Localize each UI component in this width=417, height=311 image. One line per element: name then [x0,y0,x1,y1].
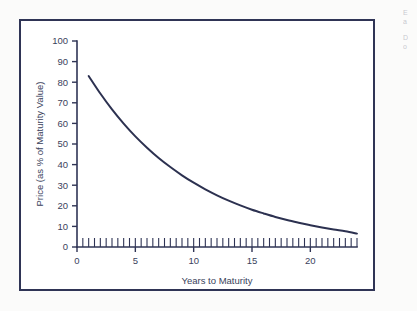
y-axis-title: Price (as % of Maturity Value) [34,82,45,207]
y-tick-label: 70 [57,97,68,108]
margin-text-line-4: o [403,42,417,51]
y-tick-label: 100 [52,35,68,46]
margin-text-line-2: a [403,17,417,26]
line-chart: 0102030405060708090100 05101520 Price (a… [21,21,373,289]
y-axis-tick-labels: 0102030405060708090100 [52,35,68,252]
margin-text-gap [403,26,417,33]
y-tick-label: 90 [57,56,68,67]
price-decay-curve [89,76,357,234]
x-tick-label: 5 [133,255,138,266]
x-tick-label: 10 [188,255,199,266]
x-tick-label: 20 [305,255,316,266]
x-axis-tick-labels: 05101520 [74,255,315,266]
y-tick-label: 10 [57,221,68,232]
page-background: E a D o 0102030405060708090100 05101520 … [0,0,417,311]
y-tick-label: 40 [57,159,68,170]
y-tick-label: 50 [57,138,68,149]
plot-area: 0102030405060708090100 05101520 Price (a… [21,21,373,289]
y-tick-label: 30 [57,180,68,191]
cropped-margin-text: E a D o [403,8,417,60]
y-tick-label: 80 [57,77,68,88]
margin-text-line-3: D [403,33,417,42]
figure-frame: 0102030405060708090100 05101520 Price (a… [19,19,375,291]
x-tick-label: 15 [247,255,258,266]
y-tick-label: 20 [57,200,68,211]
y-tick-label: 60 [57,118,68,129]
margin-text-line-1: E [403,8,417,17]
x-axis-minor-ticks [83,238,357,247]
y-tick-label: 0 [63,241,68,252]
x-tick-label: 0 [74,255,79,266]
x-axis-title: Years to Maturity [182,275,253,286]
